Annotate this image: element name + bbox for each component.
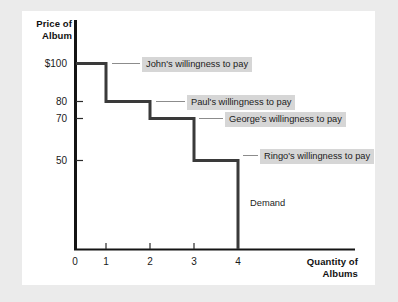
x-tick-label-4: 4: [230, 257, 246, 267]
x-tick-label-2: 2: [142, 257, 158, 267]
y-tick-label-50: 50: [33, 156, 67, 166]
y-axis-title: Price of Album: [20, 18, 72, 41]
callout-paul: Paul's willingness to pay: [187, 95, 295, 110]
x-tick-label-1: 1: [98, 257, 114, 267]
demand-curve: [76, 64, 238, 250]
x-axis-title-line2: Albums: [290, 268, 358, 280]
callout-ringo: Ringo's willingness to pay: [260, 149, 374, 164]
x-axis-title: Quantity of Albums: [290, 256, 358, 279]
callout-leader-lines: [112, 64, 258, 156]
callout-john: John's willingness to pay: [142, 57, 252, 72]
x-axis-ticks: [106, 243, 238, 249]
y-tick-label-100: $100: [33, 59, 67, 69]
x-tick-label-0: 0: [67, 257, 83, 267]
y-axis-ticks: [76, 64, 83, 161]
y-axis-title-line2: Album: [20, 30, 72, 42]
demand-curve-label: Demand: [250, 198, 285, 208]
x-tick-label-3: 3: [186, 257, 202, 267]
callout-george: George's willingness to pay: [225, 112, 346, 127]
y-tick-label-70: 70: [33, 114, 67, 124]
x-axis-title-line1: Quantity of: [290, 256, 358, 268]
y-tick-label-80: 80: [33, 97, 67, 107]
y-axis-title-line1: Price of: [20, 18, 72, 30]
demand-curve-figure: Price of Album Quantity of Albums $100 8…: [0, 0, 398, 302]
